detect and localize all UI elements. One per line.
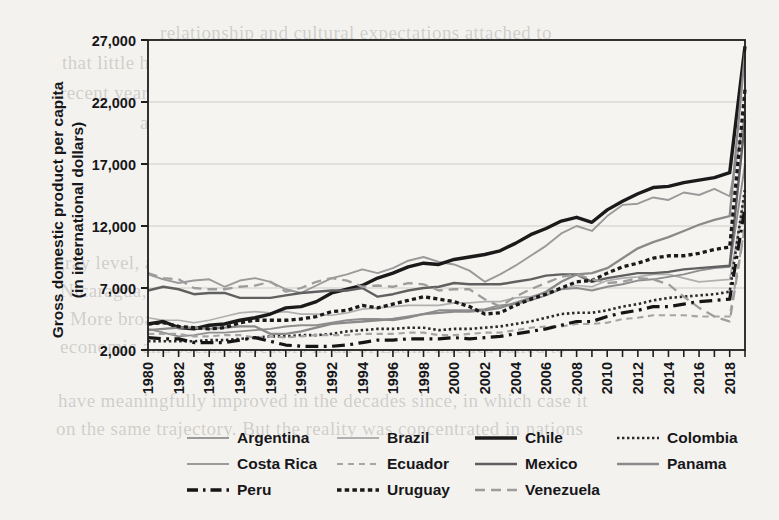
chart-page: relationship and cultural expectations a… <box>0 0 779 520</box>
legend-item-argentina[interactable]: Argentina <box>186 429 309 447</box>
chart-plot-area: 2,0007,00012,00017,00022,00027,000198019… <box>0 0 779 434</box>
legend-line-swatch <box>336 457 380 471</box>
legend-row: Costa RicaEcuadorMexicoPanama <box>186 451 766 477</box>
legend-label: Costa Rica <box>237 455 317 473</box>
x-axis-tick-label: 2014 <box>661 362 677 394</box>
x-axis-tick-label: 2018 <box>722 362 738 394</box>
x-axis-tick-label: 1984 <box>201 362 217 394</box>
legend-label: Panama <box>667 455 726 473</box>
legend-line-swatch <box>616 457 660 471</box>
x-axis-tick-label: 1980 <box>140 362 156 394</box>
legend-line-swatch <box>336 431 380 445</box>
legend-label: Brazil <box>387 429 429 447</box>
legend-item-panama[interactable]: Panama <box>616 455 726 473</box>
legend-row: ArgentinaBrazilChileColombia <box>186 425 766 451</box>
y-axis-tick-label: 17,000 <box>92 157 136 173</box>
legend-label: Argentina <box>237 429 309 447</box>
x-axis-tick-label: 1992 <box>324 362 340 394</box>
legend-item-brazil[interactable]: Brazil <box>336 429 429 447</box>
legend-row: PeruUruguayVenezuela <box>186 477 766 503</box>
legend-line-swatch <box>616 431 660 445</box>
legend-label: Venezuela <box>525 481 600 499</box>
legend-line-swatch <box>186 431 230 445</box>
x-axis-tick-label: 2010 <box>599 362 615 394</box>
x-axis-tick-label: 2006 <box>538 362 554 394</box>
x-axis-tick-label: 2016 <box>691 362 707 394</box>
line-chart-svg: 2,0007,00012,00017,00022,00027,000198019… <box>0 0 779 430</box>
x-axis-tick-label: 1982 <box>171 362 187 394</box>
y-axis-tick-label: 2,000 <box>100 343 136 359</box>
y-axis-tick-label: 7,000 <box>100 281 136 297</box>
chart-legend: ArgentinaBrazilChileColombiaCosta RicaEc… <box>186 425 766 503</box>
legend-line-swatch <box>474 483 518 497</box>
legend-item-chile[interactable]: Chile <box>474 429 563 447</box>
legend-label: Mexico <box>525 455 578 473</box>
legend-label: Uruguay <box>387 481 450 499</box>
legend-line-swatch <box>474 431 518 445</box>
x-axis-tick-label: 1996 <box>385 362 401 394</box>
legend-item-costa-rica[interactable]: Costa Rica <box>186 455 317 473</box>
y-axis-tick-label: 22,000 <box>92 95 136 111</box>
legend-line-swatch <box>474 457 518 471</box>
x-axis-tick-label: 1998 <box>416 362 432 394</box>
legend-line-swatch <box>336 483 380 497</box>
x-axis-tick-label: 2012 <box>630 362 646 394</box>
legend-item-uruguay[interactable]: Uruguay <box>336 481 450 499</box>
y-axis-tick-label: 12,000 <box>92 219 136 235</box>
legend-item-peru[interactable]: Peru <box>186 481 271 499</box>
x-axis-tick-label: 2008 <box>569 362 585 394</box>
legend-item-colombia[interactable]: Colombia <box>616 429 738 447</box>
legend-line-swatch <box>186 457 230 471</box>
legend-label: Colombia <box>667 429 738 447</box>
x-axis-tick-label: 1990 <box>293 362 309 394</box>
legend-item-ecuador[interactable]: Ecuador <box>336 455 449 473</box>
legend-line-swatch <box>186 483 230 497</box>
x-axis-tick-label: 1994 <box>355 362 371 394</box>
legend-label: Peru <box>237 481 271 499</box>
legend-item-venezuela[interactable]: Venezuela <box>474 481 600 499</box>
legend-item-mexico[interactable]: Mexico <box>474 455 578 473</box>
y-axis-tick-label: 27,000 <box>92 33 136 49</box>
x-axis-tick-label: 2000 <box>446 362 462 394</box>
x-axis-tick-label: 2004 <box>508 362 524 394</box>
legend-label: Ecuador <box>387 455 449 473</box>
legend-label: Chile <box>525 429 563 447</box>
x-axis-tick-label: 1988 <box>263 362 279 394</box>
x-axis-tick-label: 2002 <box>477 362 493 394</box>
x-axis-tick-label: 1986 <box>232 362 248 394</box>
